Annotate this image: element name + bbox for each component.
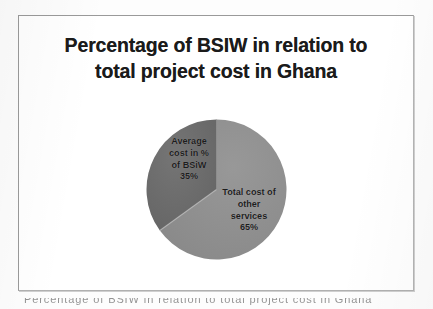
scanned-page: Percentage of BSIW in relation to total …	[0, 0, 433, 309]
cut-off-caption-text: Percentage of BSIW in relation to total …	[24, 298, 372, 305]
pie-label-other-line-2: other	[213, 199, 285, 211]
pie-label-bsiw-value: 35%	[157, 171, 221, 183]
cut-off-caption: Percentage of BSIW in relation to total …	[0, 298, 433, 309]
pie-label-bsiw-line-2: cost in %	[157, 148, 221, 160]
page-title: Percentage of BSIW in relation to total …	[18, 33, 414, 84]
pie-label-bsiw-line-3: of BSiW	[157, 160, 221, 172]
page-title-line-2: total project cost in Ghana	[18, 59, 414, 85]
pie-label-other-line-1: Total cost of	[213, 187, 285, 199]
pie-label-other-line-3: services	[213, 211, 285, 223]
pie-label-average-cost-bsiw: Average cost in % of BSiW 35%	[157, 136, 221, 183]
page-title-line-1: Percentage of BSIW in relation to	[18, 33, 414, 59]
pie-label-bsiw-line-1: Average	[157, 136, 221, 148]
pie-label-total-cost-other-services: Total cost of other services 65%	[213, 187, 285, 234]
pie-label-other-value: 65%	[213, 222, 285, 234]
